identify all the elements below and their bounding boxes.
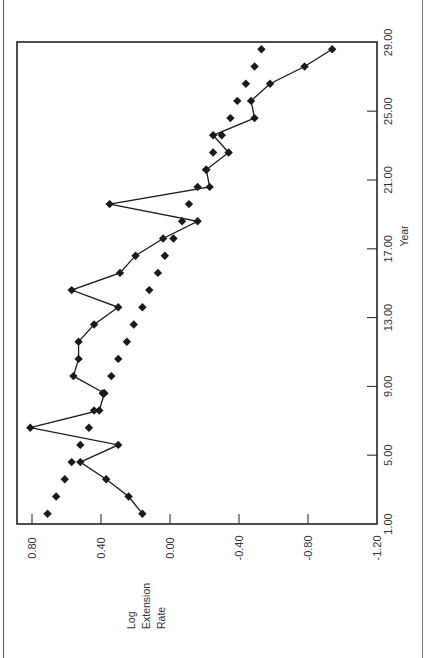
fitted-marker [185, 200, 193, 208]
observed-marker [114, 441, 122, 449]
observed-marker [205, 183, 213, 191]
fitted-marker [169, 234, 177, 242]
fitted-marker [138, 303, 146, 311]
observed-marker [193, 217, 201, 225]
fitted-marker [145, 286, 153, 294]
fitted-marker [226, 114, 234, 122]
year-tick-label: 21.00 [382, 166, 394, 194]
year-tick-label: 25.00 [382, 97, 394, 125]
observed-marker [159, 234, 167, 242]
y-axis-title-line-3: Rate [155, 607, 167, 629]
fitted-marker [257, 45, 265, 53]
value-tick-label: -0.80 [302, 535, 314, 560]
y-axis-title: Log Extension Rate [125, 583, 167, 629]
observed-marker [300, 62, 308, 70]
year-tick-label: 29.00 [382, 29, 394, 57]
value-tick-label: 0.00 [164, 537, 176, 558]
fitted-marker [67, 458, 75, 466]
year-tick-label: 1.00 [382, 513, 394, 534]
fitted-marker [90, 406, 98, 414]
observed-line [30, 49, 332, 513]
y-axis-title-line-2: Extension [140, 583, 152, 629]
fitted-marker [154, 269, 162, 277]
observed-marker [328, 45, 336, 53]
year-axis-ticks: 1.005.009.0013.0017.0021.0025.0029.00 [367, 29, 394, 535]
fitted-marker [107, 372, 115, 380]
fitted-marker [85, 423, 93, 431]
year-tick-label: 9.00 [382, 376, 394, 397]
series-fitted-markers [43, 45, 265, 518]
value-tick-label: -0.40 [233, 535, 245, 560]
fitted-marker [161, 251, 169, 259]
y-axis-title-line-1: Log [125, 611, 137, 629]
observed-marker [26, 423, 34, 431]
plot-area [17, 42, 377, 524]
fitted-marker [242, 79, 250, 87]
fitted-marker [250, 62, 258, 70]
fitted-marker [76, 441, 84, 449]
observed-marker [76, 458, 84, 466]
value-tick-label: 0.40 [95, 537, 107, 558]
series-observed-line [26, 45, 336, 518]
x-axis-title: Year [398, 225, 410, 247]
observed-marker [67, 286, 75, 294]
observed-marker [74, 355, 82, 363]
value-axis-ticks: 0.800.400.00-0.40-0.80-1.20 [26, 514, 383, 561]
fitted-marker [61, 475, 69, 483]
value-tick-label: -1.20 [371, 535, 383, 560]
fitted-marker [209, 148, 217, 156]
fitted-marker [52, 492, 60, 500]
year-tick-label: 13.00 [382, 304, 394, 332]
value-tick-label: 0.80 [26, 537, 38, 558]
observed-marker [69, 372, 77, 380]
observed-marker [114, 303, 122, 311]
fitted-marker [114, 355, 122, 363]
fitted-marker [130, 320, 138, 328]
year-tick-label: 5.00 [382, 444, 394, 465]
observed-marker [105, 200, 113, 208]
fitted-marker [43, 509, 51, 517]
year-tick-label: 17.00 [382, 235, 394, 263]
fitted-marker [233, 97, 241, 105]
observed-marker [250, 114, 258, 122]
fitted-marker [123, 337, 131, 345]
